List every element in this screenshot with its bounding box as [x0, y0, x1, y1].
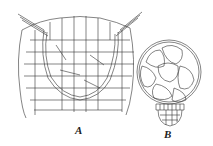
botanical-illustration: [0, 0, 213, 146]
panel-a-drawing: [18, 12, 142, 118]
panel-b-label: B: [164, 128, 171, 140]
panel-a-label: A: [75, 124, 82, 136]
panel-b-drawing: [137, 40, 201, 126]
